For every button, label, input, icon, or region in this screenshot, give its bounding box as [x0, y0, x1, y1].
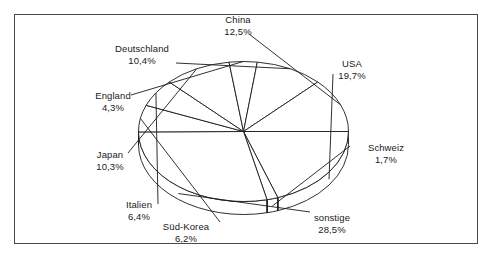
slice-label-italien: Italien 6,4% — [108, 199, 170, 222]
slice-label-usa-percent: 19,7% — [316, 70, 388, 82]
slice-label-deutschland: Deutschland 10,4% — [96, 43, 188, 66]
slice-label-sonstige-name: sonstige — [290, 212, 374, 224]
slice-label-china-name: China — [196, 14, 280, 26]
pie-chart-graphic — [0, 0, 496, 266]
slice-label-china-percent: 12,5% — [196, 26, 280, 38]
slice-label-sonstige-percent: 28,5% — [290, 224, 374, 236]
slice-label-england: England 4,3% — [82, 90, 144, 113]
pie-slices-group — [138, 62, 348, 215]
slice-label-england-percent: 4,3% — [82, 102, 144, 114]
slice-label-schweiz-name: Schweiz — [350, 142, 422, 154]
slice-label-deutschland-percent: 10,4% — [96, 55, 188, 67]
slice-label-usa: USA 19,7% — [316, 58, 388, 81]
slice-label-schweiz: Schweiz 1,7% — [350, 142, 422, 165]
slice-label-sonstige: sonstige 28,5% — [290, 212, 374, 235]
slice-label-schweiz-percent: 1,7% — [350, 154, 422, 166]
slice-label-italien-percent: 6,4% — [108, 211, 170, 223]
slice-label-suedkorea-name: Süd-Korea — [140, 221, 232, 233]
slice-label-japan-percent: 10,3% — [82, 161, 138, 173]
pie-chart-figure: China 12,5% USA 19,7% Schweiz 1,7% sonst… — [0, 0, 496, 266]
slice-label-japan: Japan 10,3% — [82, 149, 138, 172]
slice-label-england-name: England — [82, 90, 144, 102]
slice-label-usa-name: USA — [316, 58, 388, 70]
slice-label-suedkorea: Süd-Korea 6,2% — [140, 221, 232, 244]
slice-label-suedkorea-percent: 6,2% — [140, 233, 232, 245]
slice-label-china: China 12,5% — [196, 14, 280, 37]
slice-label-italien-name: Italien — [108, 199, 170, 211]
slice-label-japan-name: Japan — [82, 149, 138, 161]
slice-label-deutschland-name: Deutschland — [96, 43, 188, 55]
